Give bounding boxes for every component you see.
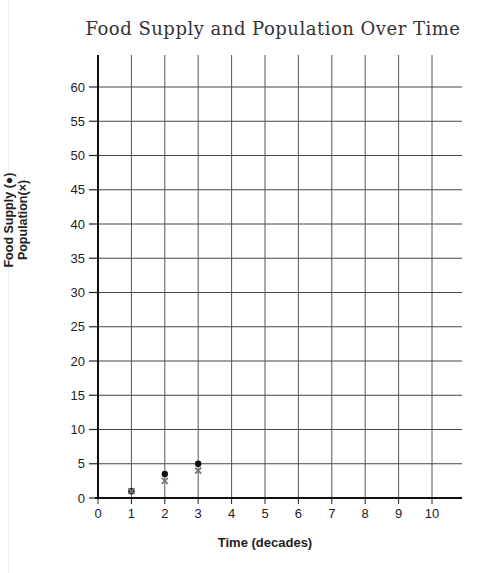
- x-axis-label: Time (decades): [98, 535, 432, 550]
- plot-area: 051015202530354045505560012345678910: [0, 0, 480, 573]
- x-tick-label: 10: [425, 506, 439, 521]
- y-tick-label: 60: [71, 80, 85, 95]
- y-tick-label: 45: [71, 182, 85, 197]
- y-tick-label: 25: [71, 319, 85, 334]
- x-tick-label: 7: [328, 506, 335, 521]
- y-axis-label-food: Food Supply (●): [2, 155, 16, 285]
- x-tick-label: 0: [94, 506, 101, 521]
- y-tick-label: 15: [71, 388, 85, 403]
- x-tick-label: 5: [261, 506, 268, 521]
- x-tick-label: 6: [295, 506, 302, 521]
- food-supply-marker-dot: [162, 471, 168, 477]
- x-tick-label: 4: [228, 506, 235, 521]
- y-tick-label: 20: [71, 354, 85, 369]
- y-tick-label: 0: [78, 491, 85, 506]
- y-tick-label: 30: [71, 285, 85, 300]
- y-tick-label: 10: [71, 422, 85, 437]
- y-axis-label-population: Population(×): [16, 155, 30, 285]
- y-tick-label: 40: [71, 217, 85, 232]
- y-axis-label: Food Supply (●) Population(×): [2, 155, 30, 285]
- y-tick-label: 35: [71, 251, 85, 266]
- x-tick-label: 3: [195, 506, 202, 521]
- food-supply-marker-dot: [195, 461, 201, 467]
- y-tick-label: 5: [78, 456, 85, 471]
- x-tick-label: 1: [128, 506, 135, 521]
- y-tick-label: 55: [71, 114, 85, 129]
- x-tick-label: 2: [161, 506, 168, 521]
- x-tick-label: 9: [395, 506, 402, 521]
- y-tick-label: 50: [71, 148, 85, 163]
- x-tick-label: 8: [362, 506, 369, 521]
